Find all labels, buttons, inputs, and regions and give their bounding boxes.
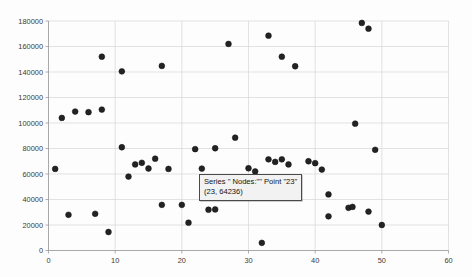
data-point[interactable] xyxy=(352,121,358,127)
data-point[interactable] xyxy=(326,192,332,198)
x-tick-label: 30 xyxy=(244,256,252,265)
data-point-tooltip: Series " Nodes:"" Point "23" (23, 64236) xyxy=(199,174,302,201)
data-point-group xyxy=(52,20,384,246)
data-point[interactable] xyxy=(272,159,278,165)
data-point[interactable] xyxy=(366,26,372,32)
data-point[interactable] xyxy=(52,166,58,172)
y-tick-label: 20000 xyxy=(22,221,43,230)
data-point[interactable] xyxy=(212,207,218,213)
x-tick-label: 50 xyxy=(378,256,386,265)
data-point[interactable] xyxy=(372,147,378,153)
data-point[interactable] xyxy=(199,166,205,172)
data-point[interactable] xyxy=(72,109,78,115)
data-point[interactable] xyxy=(86,109,92,115)
y-tick-label: 60000 xyxy=(22,170,43,179)
data-point[interactable] xyxy=(366,209,372,215)
data-point[interactable] xyxy=(92,211,98,217)
data-point[interactable] xyxy=(106,229,112,235)
x-tick-label: 60 xyxy=(444,256,452,265)
data-point[interactable] xyxy=(99,54,105,60)
data-point[interactable] xyxy=(326,213,332,219)
x-tick-label: 0 xyxy=(46,256,50,265)
data-point[interactable] xyxy=(379,222,385,228)
data-point[interactable] xyxy=(232,135,238,141)
y-tick-label: 0 xyxy=(39,246,43,255)
data-point[interactable] xyxy=(206,207,212,213)
data-point[interactable] xyxy=(159,202,165,208)
data-point[interactable] xyxy=(119,68,125,74)
data-point[interactable] xyxy=(266,156,272,162)
data-point[interactable] xyxy=(246,165,252,171)
tick-marks xyxy=(46,21,449,254)
data-point[interactable] xyxy=(166,166,172,172)
data-point[interactable] xyxy=(159,63,165,69)
data-point[interactable] xyxy=(266,33,272,39)
y-tick-label: 140000 xyxy=(18,68,43,77)
data-point[interactable] xyxy=(66,212,72,218)
data-point[interactable] xyxy=(259,240,265,246)
y-tick-label: 80000 xyxy=(22,144,43,153)
tooltip-value-line: (23, 64236) xyxy=(204,187,297,197)
data-point[interactable] xyxy=(146,166,152,172)
data-point[interactable] xyxy=(99,107,105,113)
y-tick-label: 120000 xyxy=(18,93,43,102)
data-point[interactable] xyxy=(286,162,292,168)
data-point[interactable] xyxy=(192,146,198,152)
data-point[interactable] xyxy=(132,162,138,168)
data-point[interactable] xyxy=(279,54,285,60)
y-axis-tick-labels: 0200004000060000800001000001200001400001… xyxy=(18,17,43,256)
data-point[interactable] xyxy=(179,202,185,208)
data-point[interactable] xyxy=(139,160,145,166)
y-tick-label: 160000 xyxy=(18,42,43,51)
x-axis-tick-labels: 0102030405060 xyxy=(46,256,452,265)
data-point[interactable] xyxy=(152,156,158,162)
data-point[interactable] xyxy=(292,63,298,69)
data-point[interactable] xyxy=(306,158,312,164)
data-point[interactable] xyxy=(319,167,325,173)
y-tick-label: 100000 xyxy=(18,119,43,128)
data-point[interactable] xyxy=(186,220,192,226)
vertical-gridlines xyxy=(49,21,449,251)
scatter-chart: 0200004000060000800001000001200001400001… xyxy=(0,0,472,277)
data-point[interactable] xyxy=(212,145,218,151)
data-point[interactable] xyxy=(126,174,132,180)
data-point[interactable] xyxy=(226,41,232,47)
x-tick-label: 10 xyxy=(111,256,119,265)
data-point[interactable] xyxy=(350,204,356,210)
data-point[interactable] xyxy=(59,115,65,121)
plot-area: 0200004000060000800001000001200001400001… xyxy=(0,0,472,277)
x-tick-label: 40 xyxy=(311,256,319,265)
data-point[interactable] xyxy=(312,160,318,166)
data-point[interactable] xyxy=(119,144,125,150)
y-tick-label: 180000 xyxy=(18,17,43,26)
data-point[interactable] xyxy=(359,20,365,26)
y-tick-label: 40000 xyxy=(22,195,43,204)
tooltip-series-line: Series " Nodes:"" Point "23" xyxy=(204,177,297,187)
x-tick-label: 20 xyxy=(178,256,186,265)
data-point[interactable] xyxy=(279,156,285,162)
